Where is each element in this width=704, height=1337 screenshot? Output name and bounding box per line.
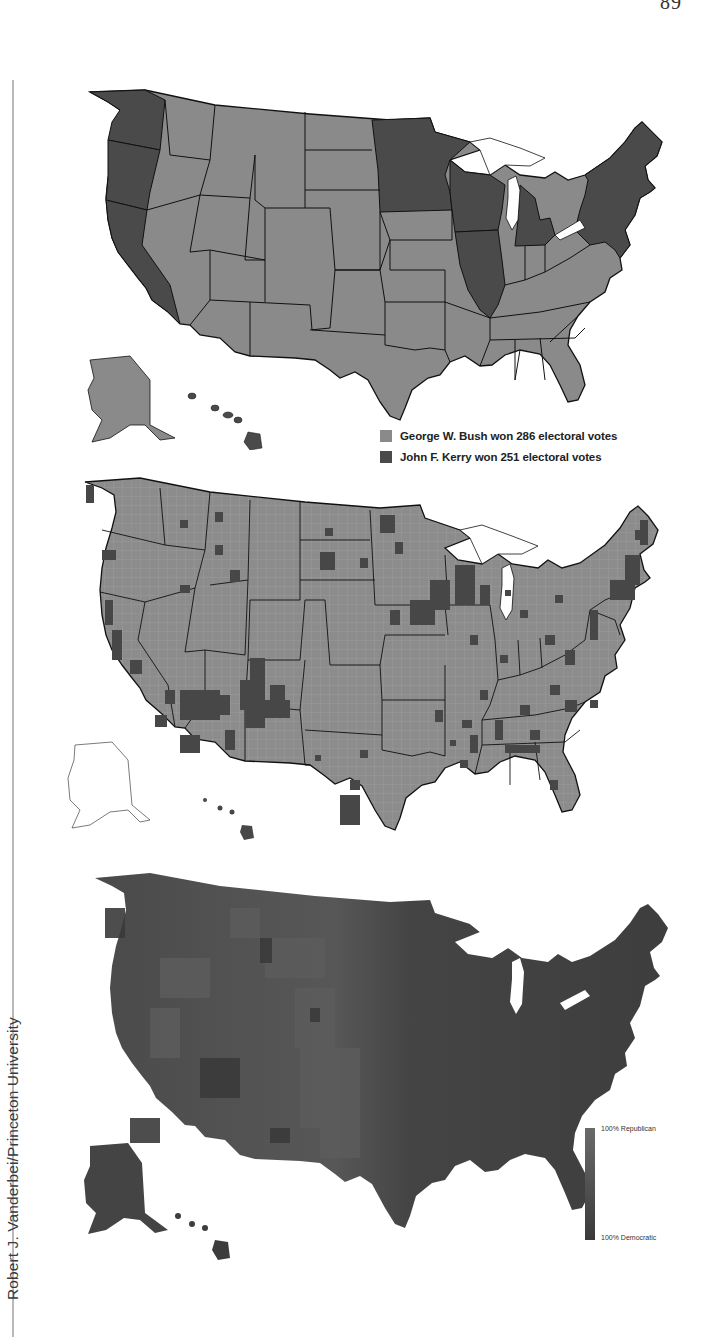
state-washington [90,90,165,150]
scale-label-republican: 100% Republican [601,1125,656,1132]
vote-share-scale: 100% Republican 100% Democratic [585,1128,595,1240]
legend-label-bush: George W. Bush won 286 electoral votes [400,430,617,442]
state-hawaii [175,1213,230,1260]
state-results-map [50,80,680,450]
photo-credit: Robert J. Vanderbei/Princeton University [4,1017,22,1300]
page-number: 89 [660,0,682,14]
state-alaska [84,1143,168,1234]
contiguous-us [95,873,668,1228]
state-hawaii [188,393,262,450]
state-alaska [88,356,175,442]
scale-label-democratic: 100% Democratic [601,1234,656,1241]
bush-swatch [380,430,392,442]
vote-share-gradient [585,1128,595,1240]
legend-item-bush: George W. Bush won 286 electoral votes [380,425,617,446]
state-northeast [575,122,662,258]
state-hawaii [203,798,254,840]
state-alaska [68,742,150,828]
county-results-map [50,460,680,860]
